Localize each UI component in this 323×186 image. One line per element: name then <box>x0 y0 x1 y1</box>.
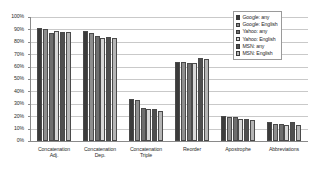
x-axis-label-line: Abbreviations <box>261 146 307 152</box>
legend-item[interactable]: Google: English <box>236 21 278 28</box>
bar <box>227 117 232 141</box>
bar <box>37 28 42 141</box>
x-axis-label-line: Dep. <box>77 152 123 158</box>
x-axis-labels: ConcatenationAdj.ConcatenationDep.Concat… <box>31 146 307 159</box>
bar <box>89 33 94 141</box>
legend-item[interactable]: MSN: English <box>236 50 278 57</box>
legend-label: Google: English <box>242 22 277 27</box>
y-axis-tick-label: 0% <box>17 138 24 143</box>
bar <box>198 58 203 141</box>
y-axis-labels: 100%90%80%70%60%50%40%30%20%10%0% <box>0 11 28 148</box>
y-axis-tick-label: 50% <box>14 76 24 81</box>
y-axis-tick-label: 30% <box>14 101 24 106</box>
y-axis-tick-label: 100% <box>11 14 24 19</box>
x-axis-label-line: Apostrophe <box>215 146 261 152</box>
y-axis-tick-label: 90% <box>14 27 24 32</box>
bar <box>192 63 197 141</box>
bar <box>175 62 180 141</box>
bar <box>204 59 209 141</box>
legend-swatch-icon <box>236 15 240 19</box>
x-axis-category-label: Apostrophe <box>215 146 261 159</box>
legend-item[interactable]: Yahoo: any <box>236 28 278 35</box>
bar <box>43 29 48 141</box>
bar <box>106 37 111 141</box>
legend-label: Yahoo: English <box>242 37 275 42</box>
bar <box>267 122 272 141</box>
bar-chart: 100%90%80%70%60%50%40%30%20%10%0% Concat… <box>0 0 323 186</box>
legend-item[interactable]: Google: any <box>236 14 278 21</box>
bar-group <box>77 17 123 141</box>
bar <box>187 63 192 141</box>
bar <box>60 32 65 141</box>
legend-swatch-icon <box>236 51 240 55</box>
y-axis-tick-label: 80% <box>14 39 24 44</box>
legend-swatch-icon <box>236 30 240 34</box>
bar <box>83 31 88 141</box>
bar <box>100 38 105 141</box>
x-axis-label-line: Reorder <box>169 146 215 152</box>
bar <box>95 36 100 141</box>
bar <box>181 62 186 141</box>
y-axis-tick-label: 20% <box>14 114 24 119</box>
legend-label: MSN: any <box>242 44 264 49</box>
bar <box>135 100 140 141</box>
bar <box>129 99 134 141</box>
legend-swatch-icon <box>236 23 240 27</box>
bar <box>54 31 59 141</box>
bar <box>158 111 163 141</box>
x-axis-category-label: ConcatenationTriple <box>123 146 169 159</box>
legend-label: Yahoo: any <box>242 29 267 34</box>
chart-legend: Google: anyGoogle: EnglishYahoo: anyYaho… <box>233 11 282 60</box>
bar <box>250 120 255 141</box>
x-axis-category-label: ConcatenationDep. <box>77 146 123 159</box>
bar <box>290 122 295 141</box>
x-axis-category-label: Reorder <box>169 146 215 159</box>
y-axis-tick-label: 60% <box>14 64 24 69</box>
legend-label: Google: any <box>242 15 269 20</box>
bar <box>141 108 146 141</box>
bar-group <box>31 17 77 141</box>
y-axis-tick-label: 10% <box>14 126 24 131</box>
bar <box>284 125 289 141</box>
y-axis-tick-label: 70% <box>14 52 24 57</box>
x-axis-label-line: Adj. <box>31 152 77 158</box>
bar <box>146 109 151 141</box>
bar <box>112 38 117 141</box>
x-axis-label-line: Triple <box>123 152 169 158</box>
bar-group <box>169 17 215 141</box>
x-axis-category-label: ConcatenationAdj. <box>31 146 77 159</box>
bar <box>273 124 278 141</box>
bar <box>152 109 157 141</box>
legend-label: MSN: English <box>242 51 272 56</box>
bar <box>296 125 301 141</box>
bar <box>66 32 71 141</box>
x-axis-category-label: Abbreviations <box>261 146 307 159</box>
bar <box>221 116 226 141</box>
legend-item[interactable]: Yahoo: English <box>236 36 278 43</box>
bar-group <box>123 17 169 141</box>
legend-swatch-icon <box>236 44 240 48</box>
legend-swatch-icon <box>236 37 240 41</box>
bar <box>49 33 54 141</box>
y-axis-tick-label: 40% <box>14 89 24 94</box>
bar <box>233 117 238 141</box>
legend-item[interactable]: MSN: any <box>236 43 278 50</box>
bar <box>244 119 249 141</box>
bar <box>238 119 243 141</box>
bar <box>279 124 284 141</box>
